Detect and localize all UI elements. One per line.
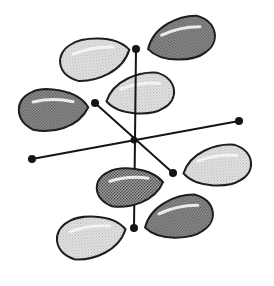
diagram-canvas — [0, 0, 274, 286]
lobe-top-left — [58, 35, 132, 83]
lobes-front-layer — [97, 168, 163, 206]
vertical-axis-endpoint-1 — [132, 45, 140, 53]
lobe-lower-center — [97, 168, 163, 206]
lobe-lower-right — [141, 192, 215, 242]
vertical-axis-endpoint-2 — [130, 224, 138, 232]
lobe-right — [182, 143, 253, 188]
horizontal-axis-endpoint-2 — [235, 117, 243, 125]
lobe-mid-left — [17, 87, 89, 134]
horizontal-axis-endpoint-1 — [28, 155, 36, 163]
lobe-top-right — [144, 13, 217, 64]
diagonal-axis-endpoint-1 — [91, 99, 99, 107]
origin-point — [131, 137, 138, 144]
diagonal-axis-endpoint-2 — [169, 169, 177, 177]
lobe-center — [105, 71, 176, 116]
lobe-bottom-left — [55, 214, 127, 261]
orbital-diagram: Orbital lobes on three axes — [0, 0, 274, 286]
